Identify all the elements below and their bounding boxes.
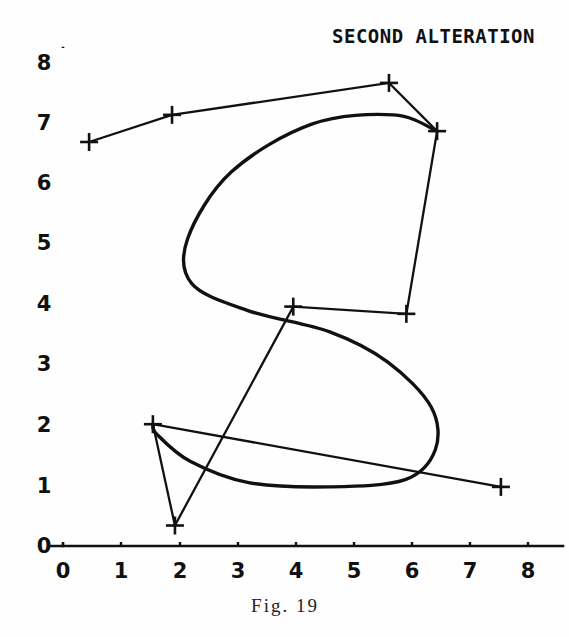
x-axis-tick-labels: 0 1 2 3 4 5 6 7 8 bbox=[56, 559, 536, 583]
y-tick-label-7: 7 bbox=[37, 111, 52, 135]
x-tick-label-6: 6 bbox=[405, 559, 420, 583]
x-tick-label-0: 0 bbox=[56, 559, 71, 583]
y-tick-label-3: 3 bbox=[37, 352, 52, 376]
y-tick-label-2: 2 bbox=[37, 413, 52, 437]
x-tick-label-8: 8 bbox=[521, 559, 536, 583]
x-tick-label-5: 5 bbox=[347, 559, 362, 583]
x-axis: 0 1 2 3 4 5 6 7 8 bbox=[50, 536, 563, 583]
plot-canvas: 8 7 6 5 4 3 2 1 0 bbox=[0, 0, 569, 637]
x-tick-label-1: 1 bbox=[114, 559, 129, 583]
x-tick-label-3: 3 bbox=[231, 559, 246, 583]
y-tick-label-5: 5 bbox=[37, 231, 52, 255]
x-tick-label-7: 7 bbox=[463, 559, 478, 583]
y-tick-label-6: 6 bbox=[37, 171, 52, 195]
y-tick-label-8: 8 bbox=[37, 51, 52, 75]
y-tick-label-4: 4 bbox=[37, 292, 52, 316]
x-tick-label-4: 4 bbox=[289, 559, 304, 583]
y-axis-tick-labels: 8 7 6 5 4 3 2 1 0 bbox=[37, 51, 52, 558]
plot-title: SECOND ALTERATION bbox=[332, 25, 535, 47]
x-tick-label-2: 2 bbox=[173, 559, 188, 583]
y-tick-label-1: 1 bbox=[37, 474, 52, 498]
figure-root: 8 7 6 5 4 3 2 1 0 bbox=[0, 0, 569, 637]
figure-caption: Fig. 19 bbox=[251, 595, 319, 616]
